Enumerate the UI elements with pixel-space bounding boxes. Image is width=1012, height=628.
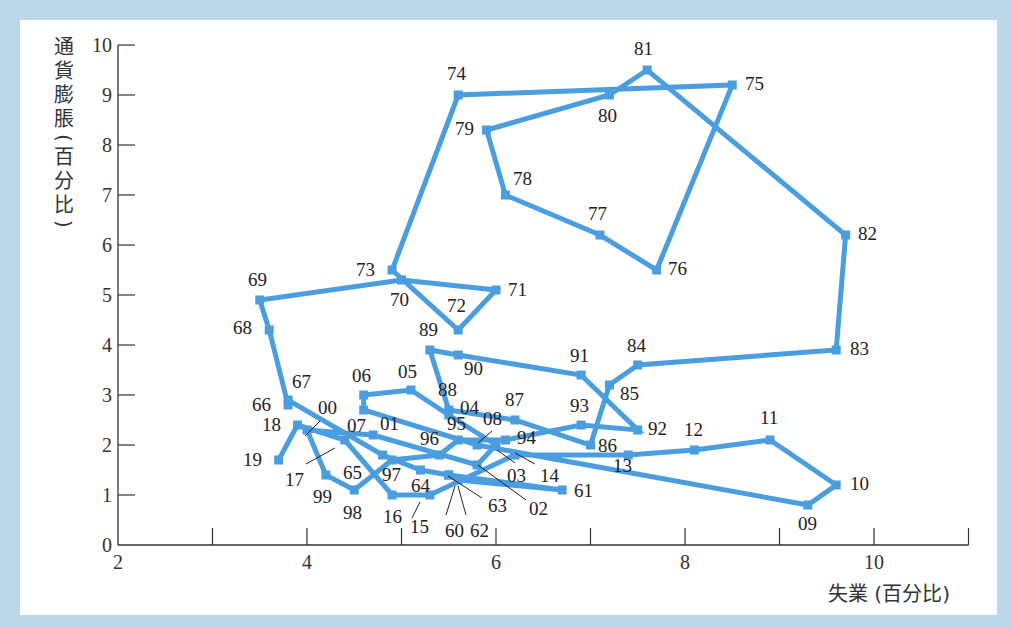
year-label: 13 xyxy=(613,455,632,476)
year-label: 94 xyxy=(517,427,537,448)
year-label: 89 xyxy=(419,319,438,340)
year-label: 18 xyxy=(262,414,281,435)
year-label: 14 xyxy=(540,465,560,486)
data-point-marker xyxy=(595,231,604,240)
year-label: 81 xyxy=(634,38,653,59)
year-label: 02 xyxy=(529,498,548,519)
data-point-marker xyxy=(454,436,463,445)
data-point-marker xyxy=(454,91,463,100)
y-axis-title-char: 貨 xyxy=(50,59,78,83)
data-point-marker xyxy=(369,431,378,440)
data-point-marker xyxy=(359,391,368,400)
y-tick-label: 4 xyxy=(102,334,112,356)
y-axis-title-char: 分 xyxy=(50,169,78,193)
data-point-marker xyxy=(633,361,642,370)
data-point-marker xyxy=(492,286,501,295)
data-point-marker xyxy=(284,401,293,410)
x-tick-label: 6 xyxy=(491,551,501,573)
data-point-marker xyxy=(416,466,425,475)
year-label: 05 xyxy=(398,361,417,382)
year-label: 91 xyxy=(570,345,589,366)
data-point-marker xyxy=(832,346,841,355)
year-label: 82 xyxy=(858,223,877,244)
data-point-marker xyxy=(652,266,661,275)
data-point-marker xyxy=(350,486,359,495)
y-axis-title: 通貨膨脹(百分比) xyxy=(50,35,78,231)
phillips-curve-chart: 0123456789102468106061626364656667686970… xyxy=(0,0,1012,628)
data-point-marker xyxy=(303,426,312,435)
year-label: 12 xyxy=(684,419,703,440)
data-point-marker xyxy=(501,191,510,200)
year-label: 97 xyxy=(382,464,401,485)
year-label: 85 xyxy=(620,383,639,404)
data-point-marker xyxy=(265,326,274,335)
x-tick-label: 4 xyxy=(302,551,312,573)
y-axis-title-char: 通 xyxy=(50,35,78,59)
y-axis-title-char: ( xyxy=(57,124,71,152)
year-label: 92 xyxy=(648,418,667,439)
year-label: 11 xyxy=(760,407,778,428)
leader-line xyxy=(458,486,466,515)
y-axis-title-char: ) xyxy=(57,210,71,238)
data-point-marker xyxy=(397,276,406,285)
year-label: 10 xyxy=(850,473,869,494)
year-label: 70 xyxy=(390,289,409,310)
year-label: 78 xyxy=(513,168,532,189)
year-label: 88 xyxy=(438,379,457,400)
y-tick-label: 7 xyxy=(102,184,112,206)
year-label: 75 xyxy=(745,73,764,94)
data-point-marker xyxy=(473,441,482,450)
data-point-marker xyxy=(586,441,595,450)
year-label: 93 xyxy=(570,395,589,416)
data-point-marker xyxy=(321,471,330,480)
year-label: 72 xyxy=(447,295,466,316)
data-point-marker xyxy=(388,266,397,275)
year-label: 04 xyxy=(460,397,480,418)
year-label: 08 xyxy=(483,408,502,429)
data-point-marker xyxy=(340,436,349,445)
year-label: 67 xyxy=(292,371,311,392)
data-point-marker xyxy=(832,481,841,490)
data-point-marker xyxy=(255,296,264,305)
data-point-marker xyxy=(293,421,302,430)
x-axis-title: 失業 (百分比) xyxy=(828,578,950,607)
year-label: 09 xyxy=(798,513,817,534)
data-point-marker xyxy=(605,91,614,100)
year-label: 74 xyxy=(447,63,467,84)
year-label: 17 xyxy=(285,469,304,490)
data-point-marker xyxy=(501,436,510,445)
data-point-marker xyxy=(425,346,434,355)
y-tick-label: 8 xyxy=(102,134,112,156)
year-label: 73 xyxy=(356,259,375,280)
y-tick-label: 1 xyxy=(102,484,112,506)
y-tick-label: 6 xyxy=(102,234,112,256)
y-tick-label: 9 xyxy=(102,84,112,106)
data-point-marker xyxy=(274,456,283,465)
data-point-marker xyxy=(359,406,368,415)
data-point-marker xyxy=(378,451,387,460)
year-label: 98 xyxy=(343,502,362,523)
year-label: 83 xyxy=(850,338,869,359)
data-point-marker xyxy=(690,446,699,455)
data-point-marker xyxy=(803,501,812,510)
y-tick-label: 10 xyxy=(92,34,112,56)
year-label: 71 xyxy=(508,279,527,300)
year-label: 63 xyxy=(488,495,507,516)
y-axis-title-char: 膨 xyxy=(50,83,78,107)
data-point-marker xyxy=(406,386,415,395)
year-label: 61 xyxy=(574,480,593,501)
year-label: 65 xyxy=(343,462,362,483)
data-point-marker xyxy=(388,491,397,500)
data-point-marker xyxy=(633,426,642,435)
data-point-marker xyxy=(492,441,501,450)
year-label: 76 xyxy=(668,258,687,279)
year-label: 00 xyxy=(318,397,337,418)
year-label: 03 xyxy=(507,465,526,486)
year-label: 64 xyxy=(411,475,431,496)
data-point-marker xyxy=(454,326,463,335)
data-point-marker xyxy=(510,416,519,425)
year-label: 87 xyxy=(505,389,524,410)
data-point-marker xyxy=(473,461,482,470)
data-point-marker xyxy=(643,66,652,75)
year-label: 68 xyxy=(233,317,252,338)
